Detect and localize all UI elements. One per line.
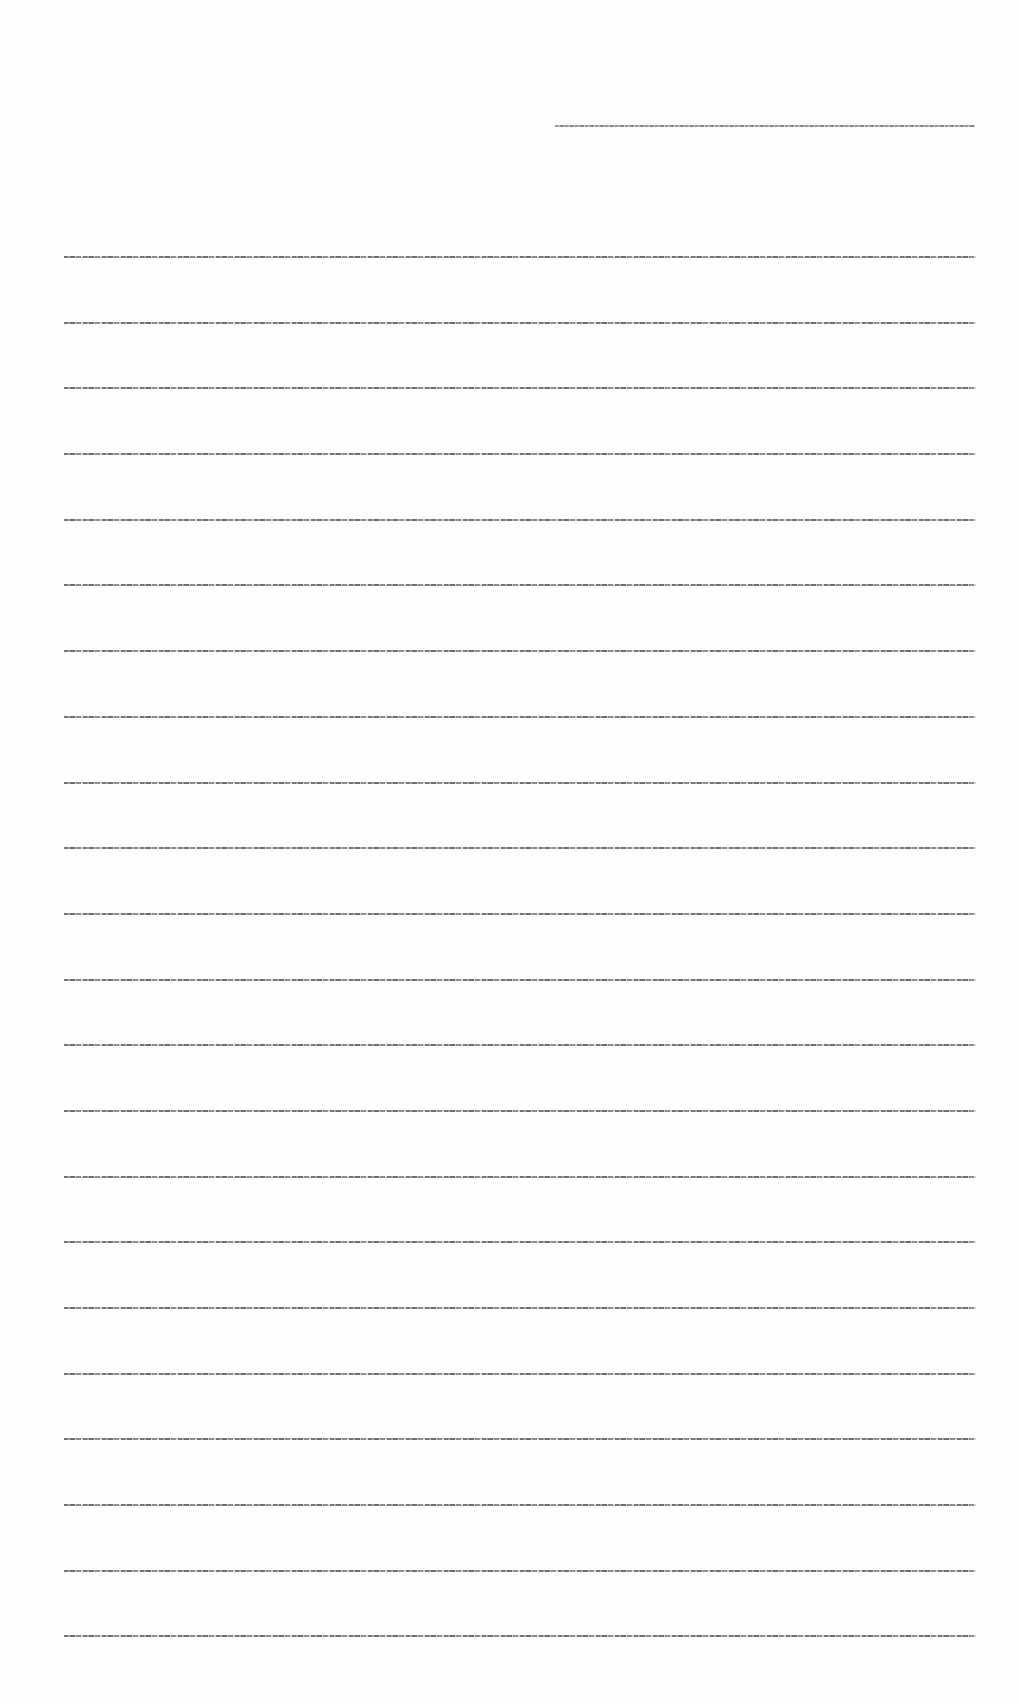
text-line <box>64 1373 976 1375</box>
text-line <box>64 1438 976 1440</box>
body-text <box>64 256 976 1701</box>
text-line <box>64 650 976 652</box>
text-line <box>64 782 976 784</box>
text-line <box>64 584 976 586</box>
text-line <box>64 716 976 718</box>
text-line <box>64 1635 976 1637</box>
text-line <box>64 1307 976 1309</box>
text-line <box>64 1044 976 1046</box>
text-line <box>64 1241 976 1243</box>
text-line <box>64 256 976 258</box>
text-line <box>64 913 976 915</box>
document-page <box>0 0 1020 1706</box>
text-line <box>64 519 976 521</box>
text-line <box>64 847 976 849</box>
text-line <box>64 1570 976 1572</box>
text-line <box>64 1504 976 1506</box>
text-line <box>64 387 976 389</box>
text-line <box>64 979 976 981</box>
text-line <box>64 322 976 324</box>
text-line <box>64 1110 976 1112</box>
text-line <box>64 453 976 455</box>
header-text-line <box>555 125 975 127</box>
text-line <box>64 1176 976 1178</box>
